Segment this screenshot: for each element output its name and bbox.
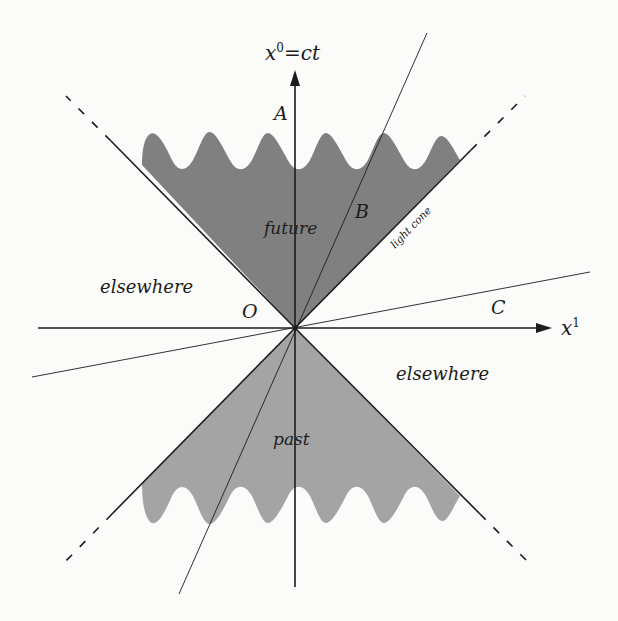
time-axis-label: x0=ct (265, 41, 321, 65)
origin-label: O (242, 300, 258, 322)
point-label-c: C (491, 296, 506, 318)
space-axis-arrowhead-icon (536, 323, 552, 333)
light-cone-dashed-lower-right (480, 514, 533, 567)
light-cone-dashed-lower-left (60, 514, 112, 567)
point-label-a: A (272, 102, 288, 124)
space-axis-label: x1 (561, 316, 580, 340)
region-label-elsewhere-left: elsewhere (100, 276, 193, 297)
time-axis-arrowhead-icon (290, 70, 300, 86)
region-label-past: past (273, 429, 310, 449)
light-cone-dashed-upper-left (66, 96, 111, 141)
region-label-elsewhere-right: elsewhere (396, 363, 489, 384)
origin-point (293, 326, 298, 331)
point-label-b: B (354, 200, 369, 222)
light-cone-dashed-upper-right (471, 96, 525, 150)
region-label-future: future (262, 218, 317, 238)
past-cone-region (142, 328, 460, 524)
light-cone-diagram: x0=ct x1 A B C O future past elsewhere e… (0, 0, 618, 621)
